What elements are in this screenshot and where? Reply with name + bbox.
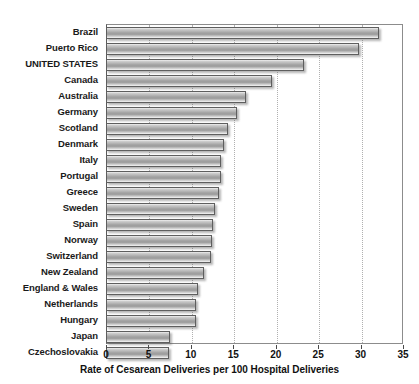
x-tick-label: 5 (146, 349, 152, 360)
category-label: England & Wales (23, 280, 98, 296)
bar (106, 299, 196, 311)
category-label-row: Australia (0, 88, 102, 104)
x-tick-label: 20 (270, 349, 281, 360)
bar-row (107, 137, 402, 153)
bar-row (107, 297, 402, 313)
bar-row (107, 281, 402, 297)
bar (106, 171, 221, 183)
bar-row (107, 25, 402, 41)
bar-row (107, 329, 402, 345)
bar-row (107, 89, 402, 105)
bar-row (107, 57, 402, 73)
bar-row (107, 313, 402, 329)
category-label: Czechoslovakia (28, 344, 98, 360)
category-label-row: New Zealand (0, 264, 102, 280)
category-label: Canada (64, 72, 98, 88)
bar (106, 203, 215, 215)
category-label: Germany (58, 104, 99, 120)
bar-row (107, 249, 402, 265)
bar (106, 251, 211, 263)
bar-row (107, 265, 402, 281)
bar-series (107, 25, 402, 343)
category-label: Brazil (73, 24, 98, 40)
category-label: Switzerland (46, 248, 98, 264)
bar (106, 283, 198, 295)
bar (106, 187, 219, 199)
x-tick-label: 25 (313, 349, 324, 360)
category-label-row: Norway (0, 232, 102, 248)
category-label-row: Portugal (0, 168, 102, 184)
bar-row (107, 153, 402, 169)
category-label-row: Germany (0, 104, 102, 120)
category-label: Spain (73, 216, 98, 232)
category-axis-labels: BrazilPuerto RicoUNITED STATESCanadaAust… (0, 24, 102, 344)
x-tick-label: 10 (185, 349, 196, 360)
bar (106, 75, 272, 87)
plot-area (106, 24, 403, 344)
category-label-row: Italy (0, 152, 102, 168)
x-tick-label: 15 (228, 349, 239, 360)
bar (106, 27, 379, 39)
bar-row (107, 105, 402, 121)
bar-row (107, 233, 402, 249)
category-label-row: Greece (0, 184, 102, 200)
bar (106, 315, 196, 327)
category-label-row: England & Wales (0, 280, 102, 296)
category-label-row: Hungary (0, 312, 102, 328)
category-label: Netherlands (44, 296, 98, 312)
bar-row (107, 217, 402, 233)
category-label: Hungary (60, 312, 98, 328)
category-label-row: Netherlands (0, 296, 102, 312)
category-label: Sweden (63, 200, 98, 216)
category-label-row: Japan (0, 328, 102, 344)
category-label-row: UNITED STATES (0, 56, 102, 72)
cesarean-rate-bar-chart: BrazilPuerto RicoUNITED STATESCanadaAust… (0, 0, 419, 384)
category-label-row: Scotland (0, 120, 102, 136)
bar (106, 331, 170, 343)
x-tick-label: 0 (103, 349, 109, 360)
category-label: Puerto Rico (46, 40, 98, 56)
bar (106, 139, 224, 151)
category-label: Portugal (60, 168, 98, 184)
bar-row (107, 73, 402, 89)
category-label-row: Canada (0, 72, 102, 88)
category-label: Norway (64, 232, 98, 248)
category-label: Denmark (58, 136, 98, 152)
bar-row (107, 201, 402, 217)
bar (106, 235, 212, 247)
bar (106, 91, 246, 103)
category-label: UNITED STATES (25, 56, 98, 72)
bar-row (107, 169, 402, 185)
category-label: New Zealand (41, 264, 98, 280)
category-label: Italy (79, 152, 98, 168)
x-tick-label: 35 (397, 349, 408, 360)
category-label-row: Denmark (0, 136, 102, 152)
x-axis-title: Rate of Cesarean Deliveries per 100 Hosp… (0, 364, 419, 375)
bar (106, 155, 221, 167)
bar (106, 59, 304, 71)
bar-row (107, 185, 402, 201)
bar (106, 107, 237, 119)
bar-row (107, 41, 402, 57)
category-label: Scotland (59, 120, 98, 136)
bar (106, 43, 359, 55)
x-tick-label: 30 (355, 349, 366, 360)
bar (106, 123, 228, 135)
category-label: Greece (66, 184, 98, 200)
category-label: Japan (71, 328, 98, 344)
category-label-row: Switzerland (0, 248, 102, 264)
category-label-row: Czechoslovakia (0, 344, 102, 360)
x-axis: 05101520253035 (106, 345, 403, 361)
category-label-row: Sweden (0, 200, 102, 216)
bar (106, 267, 204, 279)
category-label-row: Brazil (0, 24, 102, 40)
category-label-row: Puerto Rico (0, 40, 102, 56)
bar-row (107, 121, 402, 137)
category-label: Australia (58, 88, 98, 104)
bar (106, 219, 213, 231)
category-label-row: Spain (0, 216, 102, 232)
